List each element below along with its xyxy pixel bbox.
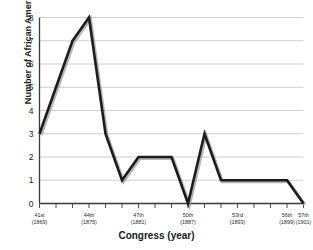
y-tick-label: 5 <box>29 82 34 92</box>
data-series-group <box>40 18 305 205</box>
x-axis-title: Congress (year) <box>0 230 313 241</box>
x-tick-labels-group: 41st(1869)44th(1875)47th(1881)50th(1887)… <box>32 212 312 225</box>
y-tick-label: 7 <box>29 36 34 46</box>
x-tick-label-congress: 53rd <box>232 212 243 218</box>
y-tick-labels-group: 012345678 <box>29 13 34 209</box>
x-tick-marks-group <box>40 204 304 209</box>
x-tick-label-year: (1901) <box>296 219 312 225</box>
data-line-shadow <box>41 19 305 205</box>
x-tick-label-year: (1875) <box>81 219 97 225</box>
x-tick-label-congress: 44th <box>84 212 95 218</box>
y-tick-label: 1 <box>29 175 34 185</box>
y-tick-label: 6 <box>29 59 34 69</box>
x-tick-label-year: (1887) <box>180 219 196 225</box>
x-tick-label-congress: 47th <box>133 212 144 218</box>
x-tick-label-year: (1869) <box>32 219 48 225</box>
x-tick-label-year: (1893) <box>230 219 246 225</box>
y-tick-label: 2 <box>29 152 34 162</box>
x-tick-label-year: (1899) <box>279 219 295 225</box>
x-tick-label-congress: 57th <box>298 212 309 218</box>
line-chart-plot: 012345678 41st(1869)44th(1875)47th(1881)… <box>0 0 313 250</box>
chart-container: Number of African Americans 012345678 41… <box>0 0 313 250</box>
x-tick-label-congress: 41st <box>34 212 45 218</box>
y-tick-label: 8 <box>29 13 34 23</box>
x-tick-label-congress: 50th <box>183 212 194 218</box>
x-tick-label-congress: 56th <box>282 212 293 218</box>
y-tick-label: 0 <box>29 199 34 209</box>
y-tick-label: 3 <box>29 129 34 139</box>
y-tick-label: 4 <box>29 106 34 116</box>
x-tick-label-year: (1881) <box>131 219 147 225</box>
